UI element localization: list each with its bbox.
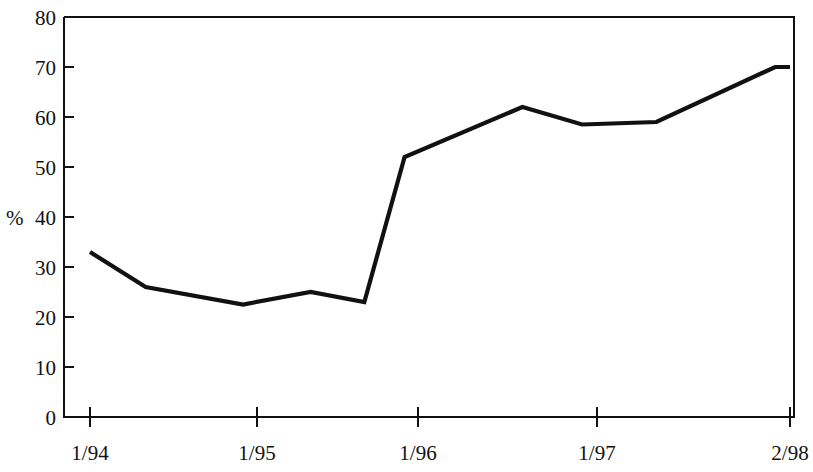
x-tick-label-1-94: 1/94 <box>71 441 109 465</box>
y-axis-tick-labels: 80 70 60 50 40 30 20 10 0 <box>35 6 56 430</box>
x-tick-label-1-95: 1/95 <box>238 441 275 465</box>
x-tick-label-1-96: 1/96 <box>399 441 436 465</box>
chart-canvas: 80 70 60 50 40 30 20 10 0 % 1/94 1/95 1/… <box>0 0 813 472</box>
y-tick-label-60: 60 <box>35 106 56 130</box>
x-tick-label-1-97: 1/97 <box>578 441 615 465</box>
y-tick-label-80: 80 <box>35 6 56 30</box>
y-axis-title: % <box>6 206 24 230</box>
y-tick-label-50: 50 <box>35 156 56 180</box>
plot-frame <box>64 17 794 417</box>
x-axis-tick-labels: 1/94 1/95 1/96 1/97 2/98 <box>71 441 808 465</box>
x-tick-label-2-98: 2/98 <box>771 441 808 465</box>
data-series-line <box>90 67 790 305</box>
plot-frame-path <box>64 17 794 417</box>
y-tick-label-40: 40 <box>35 206 56 230</box>
y-axis-ticks <box>64 67 74 367</box>
y-tick-label-20: 20 <box>35 306 56 330</box>
line-chart: 80 70 60 50 40 30 20 10 0 % 1/94 1/95 1/… <box>0 0 813 472</box>
y-tick-label-70: 70 <box>35 56 56 80</box>
y-tick-label-0: 0 <box>46 406 57 430</box>
y-tick-label-10: 10 <box>35 356 56 380</box>
y-tick-label-30: 30 <box>35 256 56 280</box>
